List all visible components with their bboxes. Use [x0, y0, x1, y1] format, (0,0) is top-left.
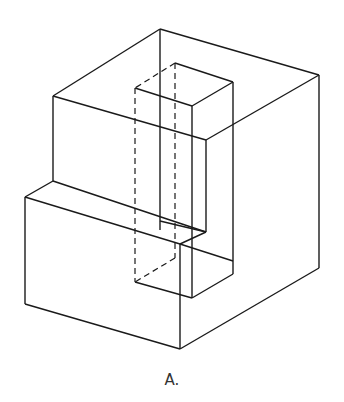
solid-edges: [25, 29, 319, 349]
edge-line: [192, 82, 233, 106]
edge-line: [180, 244, 233, 261]
edge-line: [53, 181, 206, 232]
edge-line: [25, 181, 53, 197]
edge-line: [206, 75, 319, 140]
edge-line: [135, 63, 175, 88]
edge-line: [135, 88, 192, 106]
figure-label: A.: [160, 371, 184, 389]
isometric-figure: [0, 0, 344, 402]
edge-line: [53, 29, 160, 96]
edge-line: [180, 232, 206, 244]
edge-line: [180, 268, 319, 349]
edge-line: [25, 304, 180, 349]
edge-line: [135, 258, 175, 282]
edge-line: [192, 274, 233, 298]
edge-line: [160, 221, 206, 232]
edge-line: [135, 282, 192, 298]
edge-line: [160, 29, 319, 75]
edge-line: [25, 197, 180, 244]
hidden-edges: [135, 63, 175, 282]
edge-line: [175, 63, 233, 82]
